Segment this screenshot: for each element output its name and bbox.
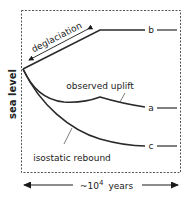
curve-b-label: b xyxy=(148,25,154,35)
isostatic-rebound-pointer xyxy=(64,128,72,144)
x-axis-label: ~104years xyxy=(80,179,134,191)
deglaciation-label: deglaciation xyxy=(30,20,84,54)
plot-frame xyxy=(22,11,181,173)
curve-c-label: c xyxy=(149,141,154,151)
curve-a-label: a xyxy=(148,103,154,113)
x-axis-prefix: ~10 xyxy=(80,181,99,191)
observed-uplift-pointer xyxy=(120,93,125,102)
sea-level-diagram: sea level b deglaciation a observed upli… xyxy=(0,0,190,197)
x-axis-exponent: 4 xyxy=(99,179,104,187)
y-axis-label: sea level xyxy=(7,69,18,119)
isostatic-rebound-label: isostatic rebound xyxy=(33,153,111,163)
observed-uplift-label: observed uplift xyxy=(66,81,134,91)
x-axis-suffix: years xyxy=(108,181,133,191)
